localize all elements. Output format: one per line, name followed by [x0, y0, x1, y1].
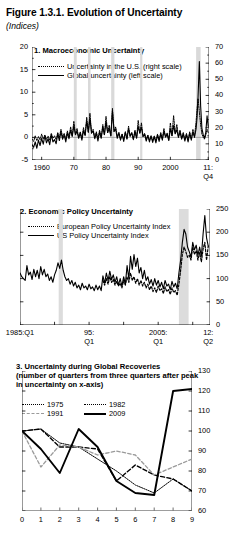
axis-tick-label: 4 — [89, 516, 107, 524]
axis-tick-label: 1960 — [28, 164, 56, 172]
panel1-plot — [32, 47, 209, 160]
axis-tick-label: 30 — [215, 108, 223, 115]
axis-tick-label: 100 — [216, 275, 228, 282]
axis-tick-label: 110 — [198, 407, 210, 414]
axis-tick-label: Q1 — [141, 338, 175, 346]
panel1-svg — [32, 47, 209, 160]
axis-tick-label: 1985:Q1 — [3, 329, 37, 337]
axis-tick-label: 6 — [126, 516, 144, 524]
panel2-plot — [20, 209, 210, 325]
axis-tick-label: 8 — [164, 516, 182, 524]
axis-tick-label: -5 — [4, 156, 28, 163]
axis-tick-label: 250 — [216, 205, 228, 212]
axis-tick-label: 120 — [198, 387, 210, 394]
axis-tick-label: 0 — [13, 516, 31, 524]
axis-tick-label: 50 — [215, 75, 223, 82]
axis-tick-label: 60 — [198, 507, 206, 514]
axis-tick-label: 0 — [4, 133, 28, 140]
axis-tick-label: 130 — [198, 367, 210, 374]
axis-tick-label: 50 — [216, 298, 224, 305]
axis-tick-label: 20 — [4, 43, 28, 50]
axis-tick-label: 2000 — [156, 164, 184, 172]
axis-tick-label: 15 — [4, 66, 28, 73]
panel-uncertainty-global-recoveries: 3. Uncertainty during Global Recoveries … — [0, 360, 251, 555]
axis-tick-label: 70 — [215, 43, 223, 50]
axis-tick-label: 5 — [107, 516, 125, 524]
figure-subtitle: (Indices) — [6, 21, 39, 31]
panel-macroeconomic-uncertainty: 1. Macroeconomic Uncertainty Uncertainty… — [0, 42, 251, 187]
panel-economic-policy-uncertainty: 2. Economic Policy Uncertainty European … — [0, 205, 251, 350]
axis-tick-label: 5 — [4, 111, 28, 118]
axis-tick-label: 40 — [215, 91, 223, 98]
axis-tick-label: 70 — [198, 487, 206, 494]
axis-tick-label: 70 — [60, 164, 88, 172]
axis-tick-label: 3 — [70, 516, 88, 524]
panel3-plot — [22, 371, 192, 511]
panel3-svg — [22, 371, 192, 511]
figure-title: Figure 1.3.1. Evolution of Uncertainty — [6, 7, 182, 18]
axis-tick-label: 90 — [124, 164, 152, 172]
axis-tick-label: 9 — [183, 516, 201, 524]
axis-tick-label: 1 — [32, 516, 50, 524]
axis-tick-label: 60 — [215, 59, 223, 66]
axis-tick-label: 20 — [215, 124, 223, 131]
axis-tick-label: 150 — [216, 251, 228, 258]
axis-tick-label: 100 — [198, 427, 210, 434]
axis-tick-label: 80 — [198, 467, 206, 474]
panel2-svg — [20, 209, 210, 325]
axis-tick-label: 2 — [51, 516, 69, 524]
axis-tick-label: 90 — [198, 447, 206, 454]
axis-tick-label: 10 — [4, 88, 28, 95]
axis-tick-label: 7 — [145, 516, 163, 524]
axis-tick-label: Q1 — [72, 338, 106, 346]
axis-tick-label: 10 — [215, 140, 223, 147]
axis-tick-label: 0 — [216, 321, 220, 328]
axis-tick-label: Q4 — [194, 173, 222, 181]
axis-tick-label: Q2 — [191, 338, 225, 346]
figure-container: Figure 1.3.1. Evolution of Uncertainty (… — [0, 0, 251, 555]
axis-tick-label: 200 — [216, 228, 228, 235]
axis-tick-label: 0 — [215, 156, 219, 163]
axis-tick-label: 80 — [92, 164, 120, 172]
